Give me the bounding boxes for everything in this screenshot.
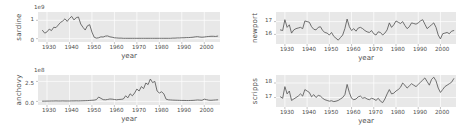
panel-newport: newport 16 17 1930 1940 1950 1960 1970 1… — [232, 0, 463, 62]
panel-scripps: scripps 17 18 1930 1940 1950 1960 1970 1… — [232, 62, 463, 135]
series-svg-scripps — [232, 62, 463, 135]
panel-anchovy: 1e8 anchovy 0.0 2.5 1930 1940 1950 1960 … — [0, 62, 232, 135]
series-svg-anchovy — [0, 62, 232, 135]
series-svg-sardine — [0, 0, 232, 62]
figure-multi-panel-timeseries: 1e9 sardine 0 1 1930 1940 1950 1960 1970… — [0, 0, 463, 135]
panel-sardine: 1e9 sardine 0 1 1930 1940 1950 1960 1970… — [0, 0, 232, 62]
series-svg-newport — [232, 0, 463, 62]
